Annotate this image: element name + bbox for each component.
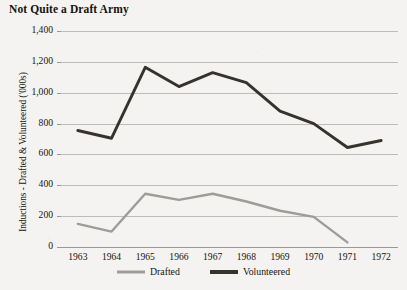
y-tick-mark	[57, 247, 61, 248]
x-tick-label: 1972	[361, 251, 401, 262]
y-tick-label: 200	[7, 209, 53, 220]
legend-label: Volunteered	[243, 266, 290, 277]
y-tick-label: 1,000	[7, 86, 53, 97]
series-line-volunteered	[78, 67, 381, 147]
chart-figure: Not Quite a Draft Army Inductions - Draf…	[0, 0, 407, 290]
series-line-drafted	[78, 194, 348, 243]
gridline	[61, 247, 398, 248]
y-tick-label: 800	[7, 117, 53, 128]
chart-legend: DraftedVolunteered	[0, 266, 407, 277]
y-tick-label: 400	[7, 178, 53, 189]
y-tick-label: 0	[7, 240, 53, 251]
legend-label: Drafted	[150, 266, 180, 277]
series-lines	[61, 31, 398, 247]
y-tick-label: 1,400	[7, 24, 53, 35]
plot-area: 02004006008001,0001,2001,400 19631964196…	[61, 31, 398, 247]
legend-item-drafted[interactable]: Drafted	[117, 266, 180, 277]
legend-item-volunteered[interactable]: Volunteered	[210, 266, 290, 277]
legend-swatch-drafted-icon	[117, 268, 145, 276]
y-tick-label: 600	[7, 147, 53, 158]
legend-swatch-volunteered-icon	[210, 268, 238, 276]
y-tick-label: 1,200	[7, 55, 53, 66]
chart-title: Not Quite a Draft Army	[9, 3, 129, 15]
